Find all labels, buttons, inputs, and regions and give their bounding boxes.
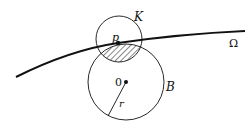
label-r: r [119,98,125,109]
label-k: K [133,10,144,24]
label-omega: Ω [229,37,238,50]
label-center: 0 [115,76,122,89]
label-p: p [112,31,119,44]
point-center [124,80,128,84]
diagram-canvas: K p Ω 0 B r [0,0,251,132]
label-b: B [165,80,175,94]
